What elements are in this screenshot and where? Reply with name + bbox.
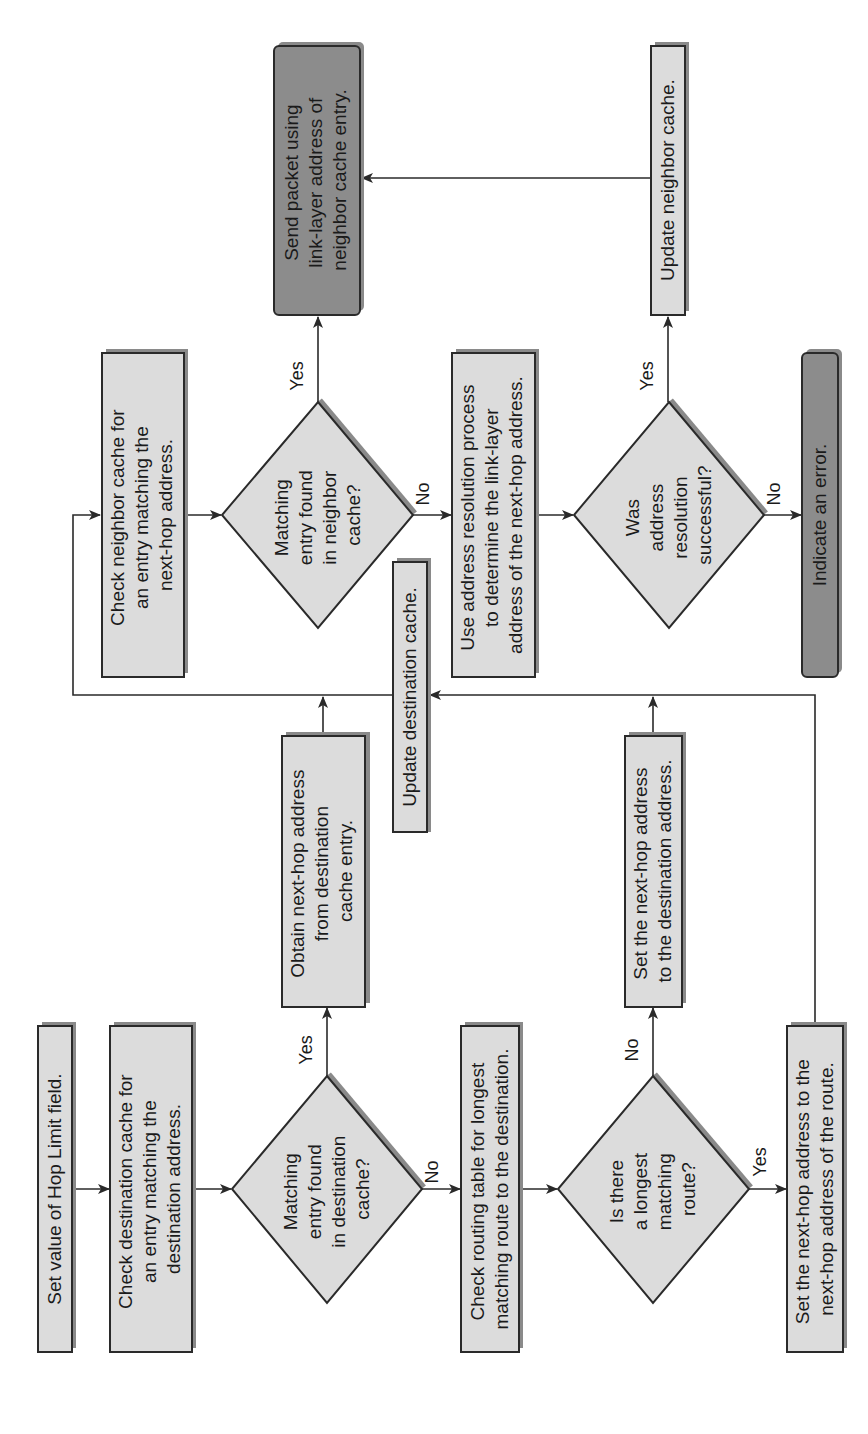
node-set-next-hop-destination: Set the next-hop address to the destinat… [625,732,686,1007]
node-check-neighbor-cache: Check neighbor cache for an entry matchi… [102,349,188,677]
node-obtain-next-hop: Obtain next-hop address from destination… [282,732,370,1007]
label-d1-no: No [422,1160,442,1183]
svg-text:Check destination cache for: Check destination cache for an entry mat… [115,1069,184,1309]
decision-address-resolution-successful: Was address resolution successful? [574,400,766,628]
svg-text:Update neighbor cache.: Update neighbor cache. [657,79,678,281]
node-update-destination-cache: Update destination cache. [393,558,431,832]
node-check-destination-cache: Check destination cache for an entry mat… [110,1022,196,1352]
svg-text:Use address resolution process: Use address resolution process to determ… [457,376,526,654]
svg-text:Indicate an error.: Indicate an error. [809,444,830,587]
decision-destination-cache-found: Matching entry found in destination cach… [232,1074,424,1303]
decision-neighbor-cache-found: Matching entry found in neighbor cache? [222,400,415,628]
svg-text:Set value of Hop Limit field.: Set value of Hop Limit field. [44,1073,65,1304]
decision-longest-matching-route: Is there a longest matching route? [558,1074,751,1303]
label-d1-yes: Yes [296,1035,316,1064]
label-d2-yes: Yes [750,1147,770,1176]
node-set-hop-limit: Set value of Hop Limit field. [38,1022,76,1352]
label-d2-no: No [622,1038,642,1061]
svg-text:Send packet using link-l: Send packet using link-layer address of … [281,89,350,270]
label-d4-no: No [764,482,784,505]
node-address-resolution: Use address resolution process to determ… [452,349,539,677]
node-set-next-hop-route: Set the next-hop address to the next-hop… [787,1022,847,1352]
label-d3-no: No [413,482,433,505]
node-send-packet: Send packet using link-layer address of … [274,42,364,315]
label-d4-yes: Yes [637,361,657,390]
node-check-routing-table: Check routing table for longest matching… [461,1022,523,1352]
label-d3-yes: Yes [287,361,307,390]
edge-setroute-to-update [430,695,815,1026]
node-update-neighbor-cache: Update neighbor cache. [651,42,689,315]
node-indicate-error: Indicate an error. [802,349,842,677]
flowchart-canvas: Yes No No Yes Yes No Yes No Set value of… [0,0,868,1434]
svg-text:Update destination cache.: Update destination cache. [399,587,420,807]
